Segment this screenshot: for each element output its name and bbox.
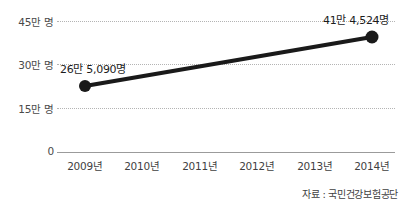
x-axis-label-2013: 2013년	[287, 158, 343, 173]
plot-area: 45만 명 30만 명 15만 명 0 26만 5,090명 41만 4,524…	[0, 0, 412, 175]
x-axis-label-2011: 2011년	[172, 158, 228, 173]
data-point-2014	[366, 31, 379, 44]
x-axis-label-2010: 2010년	[114, 158, 170, 173]
data-point-2009	[79, 80, 91, 92]
data-label-2009: 26만 5,090명	[60, 60, 126, 76]
line-chart: 45만 명 30만 명 15만 명 0 26만 5,090명 41만 4,524…	[0, 0, 412, 208]
series-segment	[85, 37, 372, 86]
x-axis-label-2009: 2009년	[57, 158, 113, 173]
x-axis: 2009년 2010년 2011년 2012년 2013년 2014년	[57, 158, 395, 176]
x-axis-label-2014: 2014년	[344, 158, 400, 173]
x-axis-label-2012: 2012년	[229, 158, 285, 173]
data-label-2014: 41만 4,524명	[323, 11, 389, 27]
source-note: 자료 : 국민건강보험공단	[302, 186, 398, 201]
